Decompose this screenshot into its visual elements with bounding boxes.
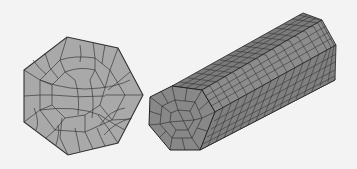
prism-mesh — [149, 13, 336, 150]
heptagon-mesh — [24, 37, 143, 155]
mesh-figure — [0, 0, 357, 169]
heptagon-outline — [24, 37, 143, 155]
